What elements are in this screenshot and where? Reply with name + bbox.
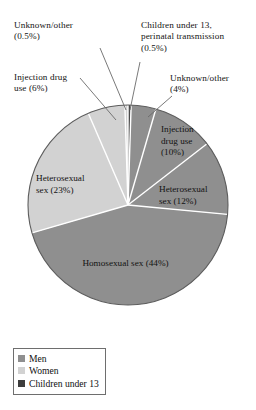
pie-chart-figure: Unknown/other (0.5%) Children under 13, … bbox=[0, 0, 256, 410]
legend-swatch-men bbox=[18, 355, 25, 362]
legend-item-men[interactable]: Men bbox=[18, 352, 99, 365]
slice-label-heterosexual-sex-men: Heterosexual sex (12%) bbox=[159, 184, 235, 207]
callout-injection-drug-use-women: Injection drug use (6%) bbox=[14, 72, 114, 95]
callout-children-under-13: Children under 13, perinatal transmissio… bbox=[141, 20, 253, 54]
slice-label-heterosexual-sex-women: Heterosexual sex (23%) bbox=[36, 173, 114, 196]
legend-swatch-women bbox=[18, 367, 25, 374]
legend-label-women: Women bbox=[29, 365, 59, 376]
callout-unknown-other-men: Unknown/other (4%) bbox=[170, 73, 254, 96]
slice-label-injection-drug-use-men: Injection drug use (10%) bbox=[161, 124, 223, 159]
legend-swatch-children-under-13 bbox=[18, 380, 25, 387]
chart-legend: Men Women Children under 13 bbox=[13, 348, 106, 395]
leader-line-children bbox=[130, 62, 140, 110]
legend-item-children-under-13[interactable]: Children under 13 bbox=[18, 377, 99, 390]
legend-label-men: Men bbox=[29, 353, 47, 364]
legend-item-women[interactable]: Women bbox=[18, 365, 99, 378]
legend-label-children-under-13: Children under 13 bbox=[29, 378, 99, 389]
callout-unknown-other-women: Unknown/other (0.5%) bbox=[14, 20, 124, 43]
slice-label-homosexual-sex-men: Homosexual sex (44%) bbox=[63, 258, 188, 270]
